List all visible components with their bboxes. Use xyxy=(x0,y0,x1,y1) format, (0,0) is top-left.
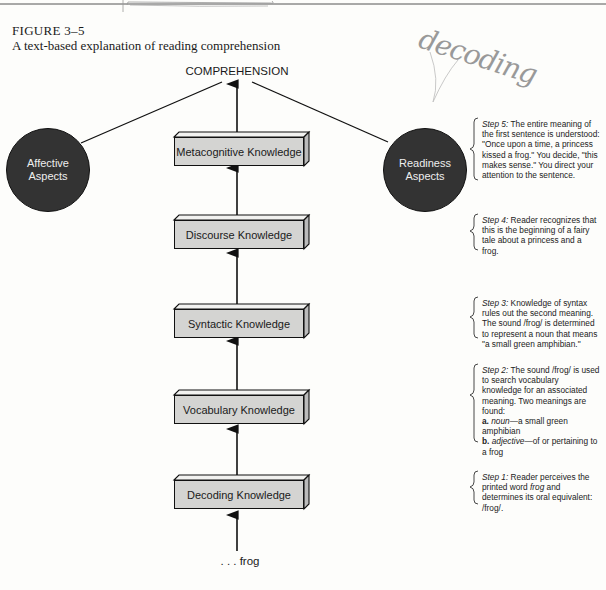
step-4-note: Step 4: Reader recognizes that this is t… xyxy=(482,215,600,256)
figure-label: FIGURE 3–5 xyxy=(12,23,85,39)
metacognitive-knowledge-box: Metacognitive Knowledge xyxy=(174,137,304,166)
readiness-aspects-circle: ReadinessAspects xyxy=(383,128,467,212)
step-1-word: frog xyxy=(530,482,544,492)
step-3-label: Step 3: xyxy=(482,298,508,308)
step-1-label: Step 1: xyxy=(482,472,508,482)
step-2-a-pos: noun xyxy=(491,416,509,426)
readiness-line2: Aspects xyxy=(405,170,444,182)
step-2-b-mark: b. xyxy=(482,436,489,446)
comprehension-node: COMPREHENSION xyxy=(170,65,304,77)
step-5-note: Step 5: The entire meaning of the first … xyxy=(482,119,600,180)
vocabulary-knowledge-box: Vocabulary Knowledge xyxy=(174,395,304,424)
step-2-label: Step 2: xyxy=(482,365,508,375)
discourse-knowledge-box: Discourse Knowledge xyxy=(174,220,304,249)
step-2-b-pos: adjective xyxy=(492,436,525,446)
figure-caption: A text-based explanation of reading comp… xyxy=(12,38,280,54)
step-2-note: Step 2: The sound /frog/ is used to sear… xyxy=(482,365,600,457)
affective-line1: Affective xyxy=(27,157,69,169)
decoding-knowledge-box: Decoding Knowledge xyxy=(174,480,304,509)
frog-input: . . . frog xyxy=(215,555,265,567)
step-1-note: Step 1: Reader perceives the printed wor… xyxy=(482,472,600,513)
affective-aspects-circle: AffectiveAspects xyxy=(6,128,90,212)
step-3-note: Step 3: Knowledge of syntax rules out th… xyxy=(482,298,600,349)
readiness-line1: Readiness xyxy=(399,157,451,169)
syntactic-knowledge-box: Syntactic Knowledge xyxy=(174,309,304,338)
step-2-a-mark: a. xyxy=(482,416,489,426)
step-5-label: Step 5: xyxy=(482,119,508,129)
step-4-label: Step 4: xyxy=(482,215,508,225)
affective-line2: Aspects xyxy=(28,170,67,182)
